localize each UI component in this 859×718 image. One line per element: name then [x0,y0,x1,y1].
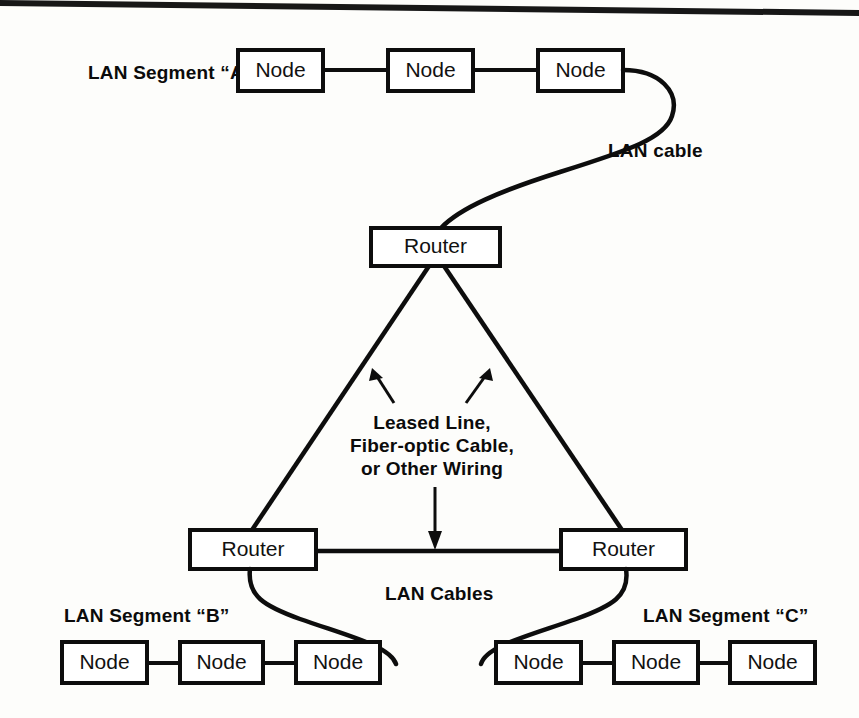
wan-link-left-leg [252,266,429,530]
lan-segment-c-label: LAN Segment “C” [643,605,809,626]
router-label: Router [592,537,655,560]
arrow-up-right-icon [466,368,493,403]
segment-a-node-2[interactable]: Node [388,50,473,91]
node-label: Node [631,650,681,673]
router-bottom-left[interactable]: Router [190,530,316,569]
network-diagram-canvas: LAN Segment “A” Node Node Node LAN cable [0,0,859,718]
lan-segment-b-label: LAN Segment “B” [64,605,230,626]
segment-b-node-2[interactable]: Node [180,642,263,683]
router-top[interactable]: Router [371,228,500,266]
lan-segment-a-label: LAN Segment “A” [88,62,254,83]
router-label: Router [404,234,467,257]
wan-link-line-3: or Other Wiring [361,458,503,479]
network-diagram-svg: LAN Segment “A” Node Node Node LAN cable [0,0,859,718]
lan-cable-single-label: LAN cable [608,140,703,161]
wan-link-line-2: Fiber-optic Cable, [350,435,514,456]
node-label: Node [196,650,246,673]
lan-cables-plural-label: LAN Cables [385,583,494,604]
node-label: Node [747,650,797,673]
segment-c-node-2[interactable]: Node [614,642,698,683]
node-label: Node [555,58,605,81]
lan-segment-c-group: LAN Segment “C” Node Node Node [496,605,815,683]
segment-c-node-1[interactable]: Node [496,642,581,683]
wan-link-line-1: Leased Line, [373,412,491,433]
segment-c-node-3[interactable]: Node [730,642,815,683]
wan-link-caption: Leased Line, Fiber-optic Cable, or Other… [350,412,514,479]
node-label: Node [313,650,363,673]
node-label: Node [255,58,305,81]
segment-b-node-1[interactable]: Node [62,642,147,683]
arrow-up-left-icon [369,368,394,403]
arrow-down-icon [428,487,442,550]
segment-a-node-3[interactable]: Node [538,50,623,91]
lan-segment-a-group: LAN Segment “A” Node Node Node [88,50,623,91]
segment-b-node-3[interactable]: Node [296,642,380,683]
segment-a-node-1[interactable]: Node [238,50,323,91]
node-label: Node [79,650,129,673]
page-edge-artifact [0,0,859,16]
lan-segment-b-group: LAN Segment “B” Node Node Node [62,605,380,683]
node-label: Node [405,58,455,81]
router-bottom-right[interactable]: Router [561,530,686,569]
node-label: Node [513,650,563,673]
router-label: Router [221,537,284,560]
